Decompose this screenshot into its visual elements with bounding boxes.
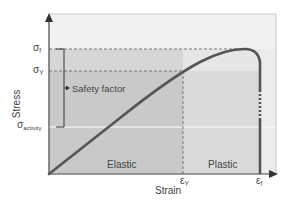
stress-strain-diagram: Safety factor σf σY σactivity Stress Str… [0, 0, 290, 209]
sigma-y-label: σY [33, 64, 44, 76]
safety-factor-label: Safety factor [72, 83, 125, 94]
sigma-f-label: σf [33, 42, 41, 54]
elastic-upper-band [49, 49, 183, 71]
x-axis-title: Strain [155, 185, 181, 196]
top-region [49, 14, 276, 49]
plastic-label: Plastic [208, 159, 237, 170]
sigma-activity-label: σactivity [17, 119, 42, 131]
y-axis-title: Stress [11, 90, 22, 118]
elastic-label: Elastic [107, 159, 136, 170]
eps-f-label: εf [256, 175, 262, 187]
post-fracture-region [260, 49, 276, 174]
eps-y-label: εY [180, 175, 189, 187]
